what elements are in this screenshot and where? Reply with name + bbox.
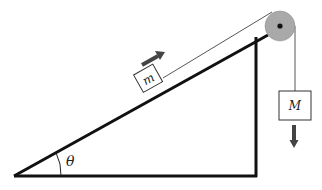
- angle-label: θ: [66, 153, 75, 169]
- incline-surface: [14, 35, 268, 176]
- arrow-down-icon: [290, 125, 299, 148]
- block-m: m: [134, 64, 163, 92]
- pulley: [265, 11, 295, 41]
- incline-pulley-diagram: θ m M: [0, 0, 322, 190]
- block-M-label: M: [288, 99, 302, 113]
- incline-triangle: [14, 35, 268, 177]
- pulley-axle-icon: [277, 23, 282, 28]
- angle-arc: [56, 153, 61, 176]
- arrow-up-incline-icon: [142, 51, 165, 65]
- block-M: M: [279, 91, 311, 120]
